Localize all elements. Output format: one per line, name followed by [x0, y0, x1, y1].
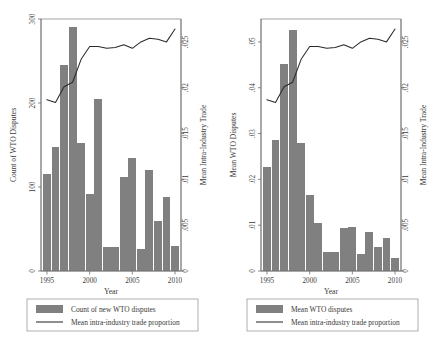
bar-2005	[348, 227, 356, 271]
plot-area-right-panel: 0.01.02.03.04.05Mean WTO Disputes0.005.0…	[229, 19, 428, 331]
y-ticklabel-right: 0	[402, 269, 410, 273]
bar-1996	[272, 140, 280, 271]
y-ticklabel-left: 200	[29, 97, 37, 108]
y-ticklabel-right: .025	[402, 35, 410, 48]
legend-label-line: Mean intra-industry trade proportion	[291, 318, 400, 327]
chart-svg-right: 0.01.02.03.04.05Mean WTO Disputes0.005.0…	[220, 0, 440, 344]
y-ticklabel-right: .02	[402, 83, 410, 92]
legend-swatch-bar	[256, 305, 283, 312]
bar-2002	[103, 247, 111, 271]
y-axis-title-left: Count of WTO Disputes	[9, 108, 18, 182]
y-ticklabel-right: .015	[182, 127, 190, 140]
chart-panel-left: 0100200300Count of WTO Disputes0.005.01.…	[0, 0, 220, 344]
bar-2000	[306, 195, 314, 271]
legend-label-bar: Mean WTO disputes	[291, 305, 352, 314]
x-ticklabel: 1995	[40, 277, 55, 285]
bar-2006	[137, 249, 145, 271]
y-ticklabel-left: .03	[249, 129, 257, 138]
bar-2007	[145, 170, 153, 271]
bar-2000	[86, 194, 94, 271]
x-axis-title: Year	[324, 287, 338, 296]
legend-swatch-bar	[36, 305, 63, 312]
x-ticklabel: 2005	[345, 277, 360, 285]
plot-area-left-panel: 0100200300Count of WTO Disputes0.005.01.…	[9, 13, 208, 331]
bar-2010	[391, 258, 399, 271]
y-ticklabel-right: .01	[182, 174, 190, 183]
bar-2010	[171, 246, 179, 271]
x-ticklabel: 2010	[168, 277, 183, 285]
bar-2008	[374, 247, 382, 271]
legend: Count of new WTO disputesMean intra-indu…	[27, 299, 198, 331]
y-ticklabel-left: 100	[29, 181, 37, 192]
bar-2004	[120, 177, 128, 271]
y-axis-title-left: Mean WTO Disputes	[229, 113, 238, 178]
x-ticklabel: 2010	[388, 277, 403, 285]
bar-2005	[128, 158, 136, 271]
bar-1999	[297, 143, 305, 271]
bar-series	[263, 30, 399, 271]
y-ticklabel-left: .02	[249, 174, 257, 183]
y-ticklabel-right: .02	[182, 83, 190, 92]
x-ticklabel: 2005	[125, 277, 140, 285]
legend: Mean WTO disputesMean intra-industry tra…	[247, 299, 418, 331]
bar-2004	[340, 228, 348, 271]
bar-2003	[111, 247, 119, 271]
x-ticklabel: 2000	[302, 277, 317, 285]
bar-1998	[69, 27, 77, 271]
bar-1997	[280, 64, 288, 271]
y-ticklabel-right: 0	[182, 269, 190, 273]
bar-2009	[383, 238, 391, 271]
y-ticklabel-left: 0	[29, 269, 37, 273]
chart-panel-right: 0.01.02.03.04.05Mean WTO Disputes0.005.0…	[220, 0, 440, 344]
bar-1997	[60, 65, 68, 271]
y-ticklabel-left: 0	[249, 269, 257, 273]
bar-1996	[52, 147, 60, 271]
y-axis-title-right: Mean Intra-Industry Trade	[419, 104, 428, 185]
x-ticklabel: 1995	[260, 277, 275, 285]
bar-1999	[77, 143, 85, 271]
bar-2001	[94, 99, 102, 271]
bar-series	[43, 27, 179, 271]
figure-container: 0100200300Count of WTO Disputes0.005.01.…	[0, 0, 440, 344]
bar-2007	[365, 232, 373, 271]
bar-2002	[323, 252, 331, 271]
y-ticklabel-left: .05	[249, 37, 257, 46]
bar-1998	[289, 30, 297, 271]
y-ticklabel-right: .005	[182, 218, 190, 231]
y-ticklabel-right: .015	[402, 127, 410, 140]
bar-2003	[331, 252, 339, 271]
legend-label-line: Mean intra-industry trade proportion	[71, 318, 180, 327]
y-axis-title-right: Mean Intra-Industry Trade	[199, 104, 208, 185]
legend-label-bar: Count of new WTO disputes	[71, 305, 156, 314]
y-ticklabel-right: .01	[402, 174, 410, 183]
bar-1995	[263, 167, 271, 271]
bar-2006	[357, 254, 365, 271]
chart-svg-left: 0100200300Count of WTO Disputes0.005.01.…	[0, 0, 220, 344]
y-ticklabel-left: .04	[249, 83, 257, 92]
x-axis-title: Year	[104, 287, 118, 296]
bar-2001	[314, 223, 322, 271]
bar-2009	[163, 197, 171, 271]
y-ticklabel-left: .01	[249, 220, 257, 229]
bar-1995	[43, 174, 51, 271]
y-ticklabel-right: .005	[402, 218, 410, 231]
y-ticklabel-left: 300	[29, 13, 37, 24]
bar-2008	[154, 221, 162, 271]
y-ticklabel-right: .025	[182, 35, 190, 48]
x-ticklabel: 2000	[82, 277, 97, 285]
